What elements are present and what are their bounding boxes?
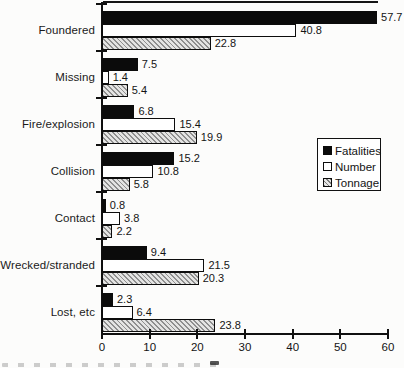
- bar-value-label: 5.4: [132, 84, 147, 97]
- bar-fatalities: [102, 293, 113, 306]
- bar-tonnage: [102, 319, 215, 332]
- bar-value-label: 19.9: [201, 131, 222, 144]
- bar-number: [102, 71, 109, 84]
- bar-value-label: 1.4: [113, 71, 128, 84]
- y-axis-tick: [96, 50, 107, 52]
- bar-value-label: 2.3: [117, 293, 132, 306]
- x-axis-tick: [101, 329, 103, 339]
- bar-fatalities: [102, 58, 138, 71]
- white-outlined-swatch-icon: [323, 162, 332, 171]
- bar-fatalities: [102, 246, 147, 259]
- bar-value-label: 21.5: [208, 259, 229, 272]
- x-axis-tick-label: 20: [182, 341, 212, 353]
- y-axis-tick: [96, 144, 107, 146]
- cut-off-caption-fragment: [2, 363, 226, 367]
- category-label: Collision: [0, 165, 95, 177]
- legend-label: Fatalities: [335, 145, 381, 157]
- bar-tonnage: [102, 225, 112, 238]
- x-axis-tick-label: 50: [325, 341, 355, 353]
- x-axis-tick-label: 30: [230, 341, 260, 353]
- bar-value-label: 10.8: [157, 165, 178, 178]
- bar-tonnage: [102, 84, 128, 97]
- x-axis-tick: [196, 329, 198, 339]
- bar-value-label: 5.8: [134, 178, 149, 191]
- bar-tonnage: [102, 131, 197, 144]
- legend-item-fatalities: Fatalities: [323, 143, 376, 158]
- x-axis-tick: [339, 329, 341, 339]
- category-label: Missing: [0, 71, 95, 83]
- legend-item-number: Number: [323, 159, 376, 174]
- cut-off-caption-superscript-mark: [210, 361, 219, 365]
- x-axis-tick: [244, 329, 246, 339]
- bar-fatalities: [102, 152, 174, 165]
- y-axis-tick: [96, 238, 107, 240]
- x-axis-tick: [149, 329, 151, 339]
- category-label: Contact: [0, 212, 95, 224]
- bar-tonnage: [102, 272, 199, 285]
- y-axis-tick: [96, 3, 107, 5]
- legend-label: Tonnage: [335, 177, 379, 189]
- bar-number: [102, 259, 204, 272]
- y-axis-tick: [96, 97, 107, 99]
- bar-number: [102, 306, 133, 319]
- y-axis-tick: [96, 285, 107, 287]
- category-label: Foundered: [0, 24, 95, 36]
- bar-number: [102, 212, 120, 225]
- legend: FatalitiesNumberTonnage: [317, 138, 381, 191]
- bar-fatalities: [102, 11, 377, 24]
- legend-item-tonnage: Tonnage: [323, 175, 376, 190]
- bar-value-label: 40.8: [300, 24, 321, 37]
- bar-value-label: 6.8: [138, 105, 153, 118]
- bar-number: [102, 118, 175, 131]
- bar-number: [102, 165, 153, 178]
- bar-value-label: 23.8: [219, 319, 240, 332]
- bar-value-label: 0.8: [110, 199, 125, 212]
- bar-value-label: 15.4: [179, 118, 200, 131]
- top-rule: [103, 1, 378, 3]
- bar-value-label: 15.2: [178, 152, 199, 165]
- x-axis-tick: [387, 329, 389, 339]
- bar-tonnage: [102, 37, 211, 50]
- category-label: Wrecked/stranded: [0, 259, 95, 271]
- x-axis-tick-label: 0: [87, 341, 117, 353]
- bar-value-label: 20.3: [203, 272, 224, 285]
- bar-value-label: 3.8: [124, 212, 139, 225]
- solid-black-swatch-icon: [323, 146, 332, 155]
- bar-number: [102, 24, 296, 37]
- chart-figure: Foundered57.740.822.8Missing7.51.45.4Fir…: [0, 0, 404, 368]
- bar-value-label: 2.2: [116, 225, 131, 238]
- category-label: Fire/explosion: [0, 118, 95, 130]
- bar-fatalities: [102, 105, 134, 118]
- x-axis-tick-label: 10: [135, 341, 165, 353]
- bar-value-label: 57.7: [381, 11, 402, 24]
- bar-fatalities: [102, 199, 106, 212]
- bar-tonnage: [102, 178, 130, 191]
- diagonal-hatch-swatch-icon: [323, 178, 332, 187]
- x-axis-tick: [292, 329, 294, 339]
- x-axis-tick-label: 40: [278, 341, 308, 353]
- category-label: Lost, etc: [0, 306, 95, 318]
- bar-value-label: 22.8: [215, 37, 236, 50]
- bar-value-label: 7.5: [142, 58, 157, 71]
- legend-label: Number: [335, 161, 376, 173]
- bar-value-label: 6.4: [137, 306, 152, 319]
- bar-value-label: 9.4: [151, 246, 166, 259]
- x-axis-tick-label: 60: [373, 341, 403, 353]
- y-axis-tick: [96, 191, 107, 193]
